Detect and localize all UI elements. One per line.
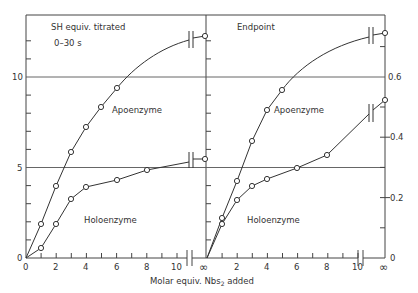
left-subtitle: 0–30 s [54,38,82,48]
x-axis-title: Molar equiv. Nbs2 added [150,276,254,287]
right-title: Endpoint [237,22,275,32]
left-x-label-6: 6 [114,262,119,272]
right-y-label-04: 0.4 [390,132,404,142]
right-x-label-10: 10 [352,262,363,272]
left-holoenzyme-label: Holoenzyme [84,215,137,225]
left-y-ticks [26,41,211,240]
left-holoenzyme-series [26,156,208,258]
right-x-label-4: 4 [264,262,269,272]
left-x-label-10: 10 [171,262,182,272]
left-x-label-8: 8 [144,262,149,272]
right-y-label-02: 0.2 [390,193,404,203]
right-x-label-8: 8 [324,262,329,272]
left-y-label-10: 10 [12,72,23,82]
curve-break-marks [189,27,373,168]
right-x-label-inf: ∞ [379,261,388,274]
left-x-label-inf: ∞ [199,261,208,274]
left-y-label-5: 5 [17,163,22,173]
left-y-label-0: 0 [17,253,22,263]
left-x-label-0: 0 [23,262,28,272]
right-holoenzyme-label: Holoenzyme [247,215,300,225]
left-apoenzyme-label: Apoenzyme [112,105,162,115]
right-x-label-2: 2 [234,262,239,272]
right-apoenzyme-label: Apoenzyme [274,105,324,115]
right-y-label-0: 0 [390,253,395,263]
right-holoenzyme-series [207,97,388,258]
left-title: SH equiv. titrated [51,22,125,32]
right-x-label-6: 6 [294,262,299,272]
chart: SH equiv. titrated 0–30 s Endpoint Apoen… [0,0,418,293]
right-y-label-06: 0.6 [388,72,402,82]
left-x-label-2: 2 [53,262,58,272]
left-x-label-4: 4 [83,262,88,272]
